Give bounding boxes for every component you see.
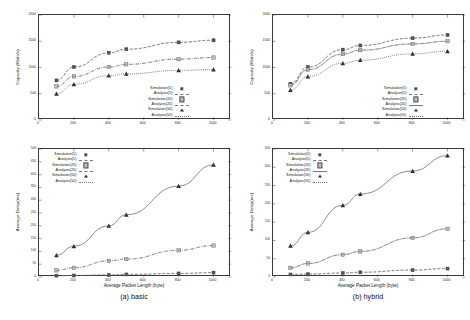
series-line-analysis5 <box>290 269 447 275</box>
y-axis-tick-label: 250 <box>256 183 270 187</box>
x-axis-tick-label: 600 <box>374 278 380 282</box>
y-axis-tick-label: 150 <box>256 219 270 223</box>
legend-line-sample <box>313 160 327 161</box>
y-axis-tick-label: 300 <box>256 164 270 168</box>
x-axis-tick-label: 200 <box>304 278 310 282</box>
x-axis-title: Average Packet Length (byte) <box>272 283 464 288</box>
legend-symbol-line-icon <box>313 168 327 173</box>
y-axis-tick-label: 50 <box>256 256 270 260</box>
x-axis-tick-label: 1000 <box>443 278 451 282</box>
y-axis-tick-label: 100 <box>256 237 270 241</box>
y-axis-tick-label: 350 <box>256 146 270 150</box>
panel-caption: (b) hybrid <box>272 292 464 301</box>
figure-root: 050010001500200002004006008001000Capacit… <box>0 0 470 320</box>
x-axis-tick-label: 800 <box>409 278 415 282</box>
series-line-analysis20 <box>290 229 447 268</box>
series-line-simulation5 <box>290 269 447 275</box>
legend-line-sample <box>313 182 327 183</box>
y-axis-title: Average Delay(ms) <box>249 193 254 231</box>
legend-symbol-line-icon <box>313 179 327 184</box>
legend-symbol-filled-square-icon <box>313 152 327 157</box>
chart-legend: Simulation(5)Analysis(5)Simulation(20)An… <box>286 152 327 184</box>
legend-symbol-line-icon <box>313 158 327 163</box>
legend-item: Analysis(50) <box>286 179 327 184</box>
chart-panel-bottom-right: 05010015020025030035002004006008001000Av… <box>0 0 470 320</box>
x-axis-tick-label: 400 <box>339 278 345 282</box>
legend-symbol-filled-triangle-icon <box>313 174 327 179</box>
y-axis-tick-label: 200 <box>256 201 270 205</box>
y-axis-tick-label: 0 <box>256 274 270 278</box>
legend-item-label: Analysis(50) <box>290 179 311 185</box>
x-axis-tick-label: 0 <box>271 278 273 282</box>
legend-symbol-open-square-icon <box>313 163 327 168</box>
series-line-simulation20 <box>290 229 447 268</box>
legend-marker-sample <box>318 153 321 156</box>
legend-marker-sample <box>318 175 322 178</box>
legend-marker-sample <box>317 163 322 168</box>
legend-line-sample <box>313 171 327 172</box>
